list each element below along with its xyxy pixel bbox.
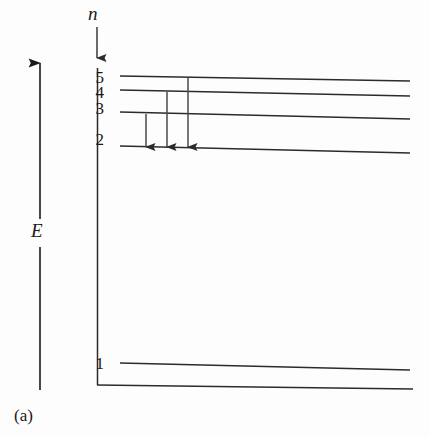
quantum-number-axis-label: n [88, 4, 98, 23]
energy-level-line-5 [120, 76, 410, 81]
diagram-frame [97, 68, 413, 389]
figure-caption: (a) [14, 407, 33, 424]
level-number-1: 1 [88, 355, 104, 372]
energy-level-diagram: n E (a) 5 4 3 2 1 [0, 0, 430, 438]
level-number-3: 3 [88, 100, 104, 117]
energy-level-line-1 [120, 363, 410, 370]
energy-level-line-2 [120, 146, 410, 153]
energy-axis-label: E [31, 221, 43, 240]
frame-baseline [97, 385, 413, 389]
level-number-2: 2 [88, 131, 104, 148]
figure-canvas [0, 0, 430, 438]
energy-level-line-4 [120, 90, 410, 96]
energy-level-lines [120, 76, 410, 370]
energy-level-line-3 [120, 112, 410, 119]
